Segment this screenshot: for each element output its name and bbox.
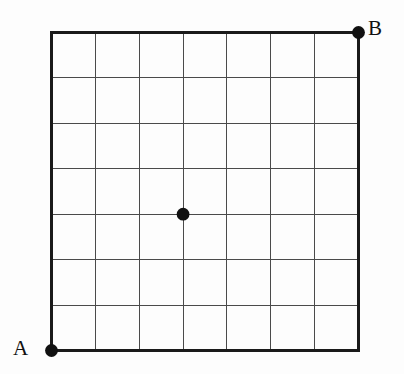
lattice-point-marked <box>177 208 190 221</box>
lattice-point-b <box>352 26 365 39</box>
lattice-point-a <box>45 344 58 357</box>
point-label-b: B <box>368 18 382 39</box>
lattice-grid-svg <box>0 0 404 374</box>
lattice-diagram: A B <box>0 0 404 374</box>
grid-lines-group <box>52 33 359 351</box>
point-label-a: A <box>13 338 28 359</box>
lattice-points-group <box>45 26 365 357</box>
grid-outer-border <box>52 33 359 351</box>
